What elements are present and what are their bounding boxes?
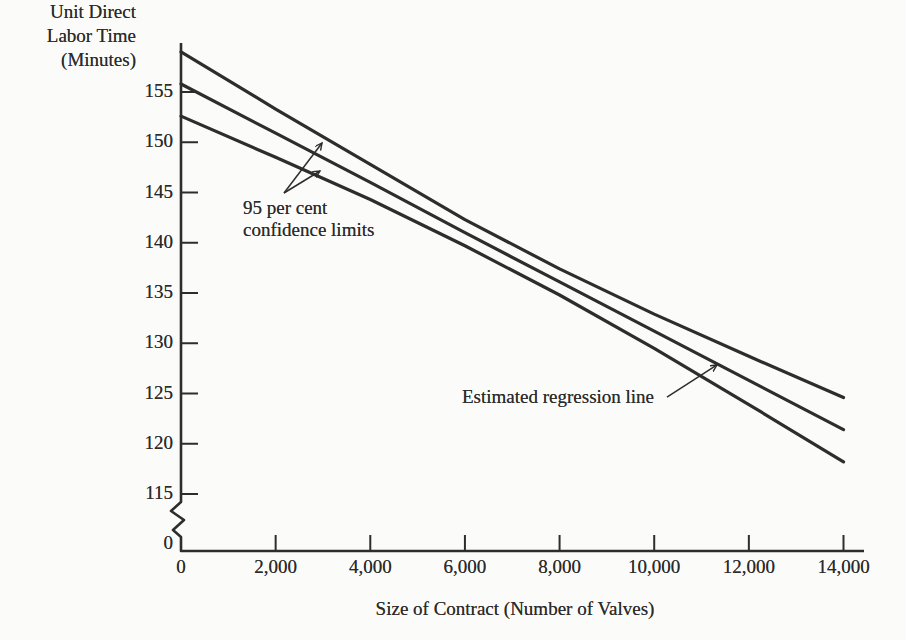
estimated-regression-line bbox=[181, 84, 844, 430]
confidence-limits-arrow bbox=[284, 171, 320, 193]
chart-canvas bbox=[0, 0, 906, 640]
upper-95-percent-confidence-limit bbox=[181, 52, 844, 398]
regression-chart-figure: Unit Direct Labor Time (Minutes) Size of… bbox=[0, 0, 906, 640]
confidence-limits-arrow bbox=[284, 143, 322, 193]
axes bbox=[171, 43, 864, 551]
lower-95-percent-confidence-limit bbox=[181, 116, 844, 462]
